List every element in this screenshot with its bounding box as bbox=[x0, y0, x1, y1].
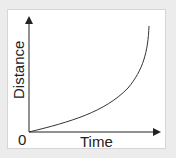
origin-label: 0 bbox=[18, 132, 26, 148]
x-axis-label: Time bbox=[80, 134, 113, 150]
y-axis-label: Distance bbox=[11, 41, 27, 99]
distance-curve bbox=[29, 26, 149, 132]
